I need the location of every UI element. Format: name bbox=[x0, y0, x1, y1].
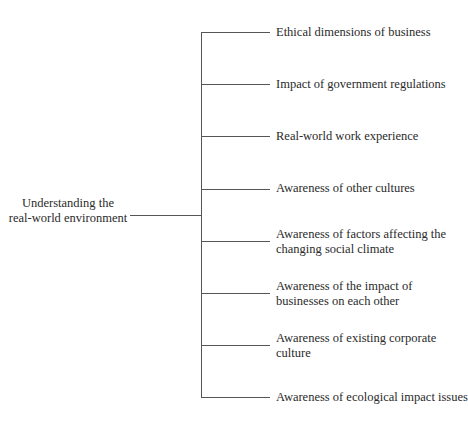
leaf-label: Real-world work experience bbox=[276, 129, 418, 144]
branch-connector bbox=[201, 136, 270, 137]
vertical-trunk bbox=[201, 32, 202, 397]
leaf-label: Awareness of the impact of bbox=[276, 279, 412, 294]
leaf-node: Awareness of existing corporate culture bbox=[276, 331, 436, 361]
leaf-label: Awareness of ecological impact issues bbox=[276, 390, 468, 405]
leaf-node: Real-world work experience bbox=[276, 129, 418, 144]
root-connector bbox=[130, 215, 202, 216]
branch-connector bbox=[201, 241, 270, 242]
branch-connector bbox=[201, 293, 270, 294]
root-node: Understanding the real-world environment bbox=[8, 196, 128, 226]
branch-connector bbox=[201, 84, 270, 85]
leaf-label: Impact of government regulations bbox=[276, 77, 446, 92]
root-label-line1: Understanding the bbox=[8, 196, 128, 211]
leaf-node: Ethical dimensions of business bbox=[276, 25, 431, 40]
branch-connector bbox=[201, 189, 270, 190]
leaf-node: Awareness of ecological impact issues bbox=[276, 390, 468, 405]
branch-connector bbox=[201, 397, 270, 398]
branch-connector bbox=[201, 32, 270, 33]
leaf-label: Ethical dimensions of business bbox=[276, 25, 431, 40]
leaf-label: Awareness of existing corporate bbox=[276, 331, 436, 346]
leaf-label: businesses on each other bbox=[276, 294, 412, 309]
leaf-label: Awareness of other cultures bbox=[276, 181, 415, 196]
leaf-label: changing social climate bbox=[276, 242, 446, 257]
leaf-node: Impact of government regulations bbox=[276, 77, 446, 92]
leaf-node: Awareness of factors affecting the chang… bbox=[276, 227, 446, 257]
leaf-node: Awareness of the impact of businesses on… bbox=[276, 279, 412, 309]
leaf-label: culture bbox=[276, 346, 436, 361]
leaf-label: Awareness of factors affecting the bbox=[276, 227, 446, 242]
root-label-line2: real-world environment bbox=[8, 211, 128, 226]
leaf-node: Awareness of other cultures bbox=[276, 181, 415, 196]
branch-connector bbox=[201, 345, 270, 346]
